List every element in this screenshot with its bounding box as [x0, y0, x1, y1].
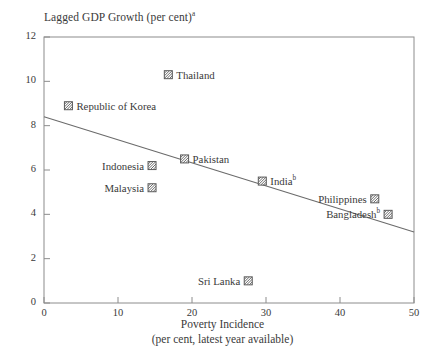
- point-label-republic-of-korea: Republic of Korea: [76, 100, 156, 111]
- scatter-chart: Lagged GDP Growth (per cent)a 024681012 …: [0, 0, 445, 363]
- x-tick-label: 10: [105, 307, 131, 318]
- plot-frame: [44, 37, 414, 303]
- point-label-pakistan: Pakistan: [193, 154, 230, 165]
- point-label-malaysia: Malaysia: [104, 182, 144, 193]
- x-tick-label: 50: [401, 307, 427, 318]
- point-label-india: Indiab: [270, 176, 296, 187]
- y-tick-label: 4: [10, 207, 36, 218]
- point-label-sri-lanka: Sri Lanka: [198, 275, 240, 286]
- point-label-text: Indonesia: [102, 159, 144, 171]
- point-label-text: Pakistan: [193, 153, 230, 165]
- point-label-indonesia: Indonesia: [102, 160, 144, 171]
- point-label-footnote: b: [292, 174, 296, 182]
- point-label-philippines: Philippines: [318, 193, 367, 204]
- point-label-text: Republic of Korea: [76, 99, 156, 111]
- x-tick-label: 0: [31, 307, 57, 318]
- point-label-text: Sri Lanka: [198, 274, 240, 286]
- y-tick-label: 0: [10, 296, 36, 307]
- point-label-text: Bangladesh: [326, 208, 376, 220]
- x-tick-label: 40: [327, 307, 353, 318]
- x-tick-label: 20: [179, 307, 205, 318]
- plot-border: [44, 37, 414, 303]
- chart-canvas: [0, 0, 445, 363]
- point-label-text: Philippines: [318, 192, 367, 204]
- y-tick-label: 10: [10, 74, 36, 85]
- point-label-thailand: Thailand: [176, 69, 214, 80]
- point-label-text: Thailand: [176, 68, 214, 80]
- point-label-footnote: b: [377, 207, 381, 215]
- x-axis-title: Poverty Incidence: [0, 318, 445, 330]
- axis-tick-marks: [44, 37, 414, 303]
- y-tick-label: 6: [10, 163, 36, 174]
- x-tick-label: 30: [253, 307, 279, 318]
- y-tick-label: 8: [10, 119, 36, 130]
- point-label-text: India: [270, 175, 292, 187]
- y-tick-label: 2: [10, 252, 36, 263]
- x-axis-subtitle: (per cent, latest year available): [0, 333, 445, 345]
- point-label-text: Malaysia: [104, 181, 144, 193]
- y-tick-label: 12: [10, 30, 36, 41]
- point-label-bangladesh: Bangladeshb: [326, 209, 380, 220]
